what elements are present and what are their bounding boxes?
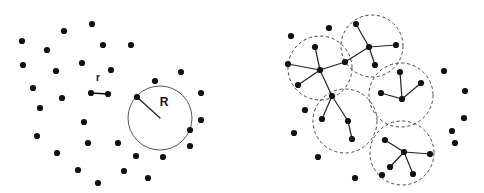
right-data-point: [352, 175, 358, 181]
left-data-point: [198, 117, 204, 123]
right-data-point: [401, 149, 407, 155]
right-data-point: [326, 25, 332, 31]
left-data-point: [178, 69, 184, 75]
radius-label-R: R: [160, 95, 169, 109]
left-data-point: [37, 105, 43, 111]
right-data-point: [399, 96, 405, 102]
left-data-point: [81, 119, 87, 125]
radius-label-r: r: [96, 72, 100, 83]
right-data-point: [387, 164, 393, 170]
left-data-point: [44, 47, 50, 53]
left-data-point: [198, 90, 204, 96]
right-data-point: [302, 107, 308, 113]
left-data-point: [187, 127, 193, 133]
right-data-point: [353, 21, 359, 27]
right-data-point: [462, 88, 468, 94]
right-data-point: [291, 130, 297, 136]
right-data-point: [329, 93, 335, 99]
left-data-point: [160, 154, 166, 160]
right-data-point: [317, 67, 323, 73]
left-data-point: [88, 90, 94, 96]
left-data-point: [128, 42, 134, 48]
left-data-point: [115, 140, 121, 146]
right-data-point: [345, 118, 351, 124]
right-data-point: [295, 82, 301, 88]
right-data-point: [349, 136, 355, 142]
right-data-point: [393, 42, 399, 48]
left-data-point: [85, 140, 91, 146]
left-data-point: [105, 91, 111, 97]
figure-container: rR: [0, 0, 484, 193]
right-data-point: [397, 69, 403, 75]
left-data-point: [133, 153, 139, 159]
right-data-point: [378, 90, 384, 96]
right-data-point: [372, 62, 378, 68]
left-data-point: [100, 42, 106, 48]
right-data-point: [461, 115, 467, 121]
left-data-point: [134, 94, 140, 100]
left-data-point: [79, 60, 85, 66]
left-data-point: [61, 28, 67, 34]
left-data-point: [121, 168, 127, 174]
left-data-point: [108, 67, 114, 73]
figure-background: [0, 0, 484, 193]
right-data-point: [382, 137, 388, 143]
left-data-point: [19, 38, 25, 44]
right-data-point: [288, 33, 294, 39]
right-data-point: [427, 151, 433, 157]
point-process-figure: rR: [0, 0, 484, 193]
right-data-point: [319, 116, 325, 122]
right-data-point: [452, 140, 458, 146]
left-data-point: [75, 167, 81, 173]
right-data-point: [418, 80, 424, 86]
right-data-point: [449, 128, 455, 134]
right-data-point: [315, 154, 321, 160]
right-data-point: [285, 61, 291, 67]
left-data-point: [89, 21, 95, 27]
left-data-point: [152, 78, 158, 84]
left-data-point: [20, 62, 26, 68]
right-data-point: [366, 44, 372, 50]
left-data-point: [145, 175, 151, 181]
left-data-point: [53, 68, 59, 74]
left-data-point: [59, 95, 65, 101]
left-data-point: [95, 180, 101, 186]
right-data-point: [441, 68, 447, 74]
right-data-point: [312, 44, 318, 50]
right-data-point: [342, 59, 348, 65]
left-data-point: [34, 133, 40, 139]
left-data-point: [30, 85, 36, 91]
right-data-point: [410, 171, 416, 177]
right-data-point: [379, 172, 385, 178]
left-data-point: [54, 150, 60, 156]
left-data-point: [187, 143, 193, 149]
